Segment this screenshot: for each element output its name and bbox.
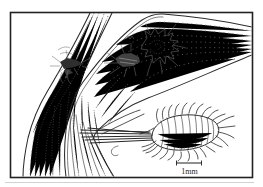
scientific-illustration: 1mm [0,0,263,187]
scale-bar-label: 1mm [181,167,198,176]
illustration-canvas: 1mm [0,0,263,187]
